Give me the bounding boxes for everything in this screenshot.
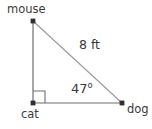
vertex-label-mouse: mouse [7, 4, 46, 16]
degree-symbol-icon: o [88, 80, 93, 90]
side-length-label-hypotenuse: 8 ft [79, 39, 100, 52]
vertex-dot-dog [120, 101, 125, 106]
vertex-label-dog: dog [127, 104, 149, 116]
vertex-dot-cat [31, 101, 36, 106]
geometry-figure: mouse cat dog 8 ft 47o [0, 0, 152, 129]
angle-value: 47 [71, 81, 88, 96]
vertex-dot-mouse [31, 19, 36, 24]
vertex-label-cat: cat [21, 109, 39, 121]
angle-measure-label: 47o [71, 81, 93, 95]
